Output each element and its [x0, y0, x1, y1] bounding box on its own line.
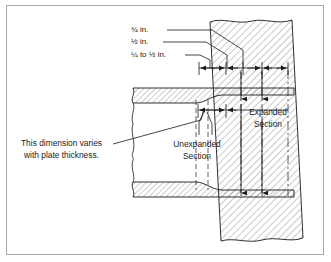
leader-dim-bottom: [185, 55, 210, 68]
unexpanded-leader-line: [199, 112, 204, 135]
unexpanded-leader-line-2: [207, 112, 212, 135]
label-expanded-section-line2: Section: [254, 119, 282, 129]
callout-quarter-to-half-inch: ¼ to ½ in.: [131, 50, 166, 59]
note-text-line1: This dimension varies: [21, 138, 102, 148]
note-text-line2: with plate thickness.: [23, 150, 99, 160]
label-unexpanded-section-line1: Unexpanded: [173, 139, 221, 149]
tube-bore-lower-left: [132, 160, 134, 182]
tube-break-left: [132, 124, 134, 160]
callout-three-quarter-inch: ¾ in.: [131, 25, 148, 34]
label-expanded-section-line1: Expanded: [249, 107, 287, 117]
tube-bore-upper-left: [132, 103, 134, 124]
callout-half-inch: ½ in.: [131, 37, 148, 46]
technical-drawing: ¾ in. ½ in. ¼ to ½ in. Expanded Section …: [0, 0, 331, 262]
figure-root: ¾ in. ½ in. ¼ to ½ in. Expanded Section …: [0, 0, 331, 262]
label-unexpanded-section-line2: Section: [183, 151, 211, 161]
unexpanded-leader: [199, 112, 212, 135]
